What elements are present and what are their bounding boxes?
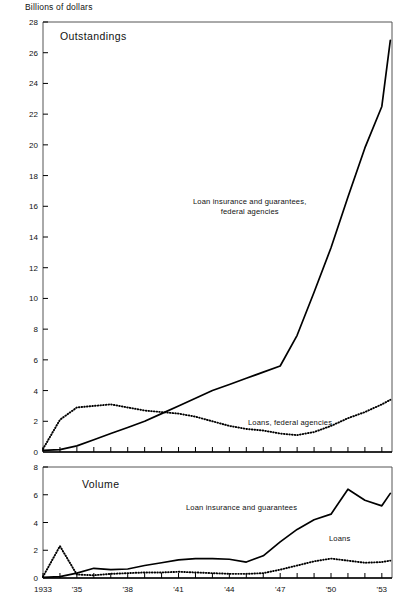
x-tick-label: '38 <box>122 585 133 594</box>
y-tick-label-top: 18 <box>29 172 38 181</box>
y-tick-label-top: 22 <box>29 110 38 119</box>
x-tick-label: '53 <box>377 585 388 594</box>
series-line-solid-top <box>43 40 390 450</box>
x-tick-label: '44 <box>224 585 235 594</box>
panel-frame-bottom <box>43 467 392 578</box>
plot-canvas: 0246810121416182022242628024681933'35'38… <box>0 0 410 606</box>
y-tick-label-top: 16 <box>29 202 38 211</box>
y-tick-label-bottom: 6 <box>34 491 39 500</box>
x-tick-label: '47 <box>275 585 286 594</box>
x-tick-label: 1933 <box>34 585 52 594</box>
y-tick-label-top: 26 <box>29 49 38 58</box>
y-tick-label-top: 4 <box>34 387 39 396</box>
y-tick-label-top: 8 <box>34 325 39 334</box>
y-tick-label-bottom: 8 <box>34 463 39 472</box>
panel-frame-top <box>43 22 392 452</box>
panel-bottom: 024681933'35'38'41'44'47'50'53 <box>34 463 392 594</box>
y-tick-label-bottom: 2 <box>34 546 39 555</box>
y-tick-label-top: 2 <box>34 417 39 426</box>
y-tick-label-top: 28 <box>29 18 38 27</box>
y-tick-label-top: 10 <box>29 294 38 303</box>
series-line-dotted-bottom <box>43 546 390 577</box>
series-line-solid-bottom <box>43 489 390 577</box>
y-tick-label-top: 14 <box>29 233 38 242</box>
x-tick-label: '35 <box>72 585 83 594</box>
y-tick-label-top: 6 <box>34 356 39 365</box>
chart-figure: Billions of dollars Outstandings Volume … <box>0 0 410 606</box>
y-tick-label-top: 20 <box>29 141 38 150</box>
y-tick-label-top: 12 <box>29 264 38 273</box>
x-tick-label: '41 <box>173 585 184 594</box>
panel-top: 0246810121416182022242628 <box>29 18 392 457</box>
y-tick-label-top: 24 <box>29 79 38 88</box>
y-tick-label-bottom: 4 <box>34 519 39 528</box>
x-tick-label: '50 <box>326 585 337 594</box>
y-tick-label-top: 0 <box>34 448 39 457</box>
series-line-dotted-top <box>43 400 390 449</box>
y-tick-label-bottom: 0 <box>34 574 39 583</box>
